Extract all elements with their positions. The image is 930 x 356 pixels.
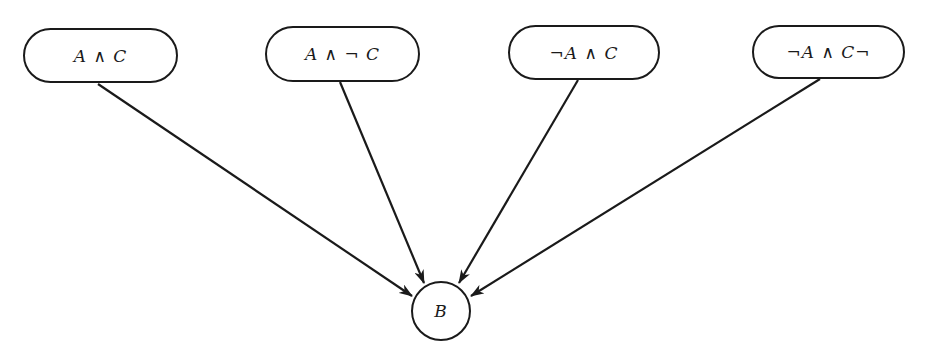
- node-label: A ∧ C: [74, 46, 128, 66]
- node-b: B: [411, 281, 471, 341]
- node-label: ¬A ∧ C¬: [786, 42, 870, 62]
- node-a-and-not-c: A ∧ ¬ C: [265, 26, 420, 82]
- edge-not-a-and-c-to-b: [459, 80, 578, 283]
- edge-not-a-and-c-not-to-b: [471, 79, 820, 296]
- node-label: ¬A ∧ C: [550, 43, 619, 63]
- node-not-a-and-c: ¬A ∧ C: [508, 25, 660, 80]
- node-not-a-and-c-not: ¬A ∧ C¬: [752, 25, 905, 79]
- edge-a-and-c-to-b: [98, 84, 412, 296]
- node-label: A ∧ ¬ C: [305, 44, 380, 64]
- node-a-and-c: A ∧ C: [23, 28, 178, 83]
- edge-a-and-not-c-to-b: [340, 82, 424, 283]
- node-label: B: [434, 301, 448, 321]
- diagram-canvas: A ∧ C A ∧ ¬ C ¬A ∧ C ¬A ∧ C¬ B: [0, 0, 930, 356]
